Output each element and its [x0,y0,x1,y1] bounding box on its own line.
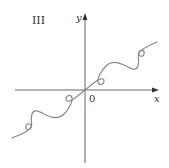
x-axis-arrow-icon [152,88,159,93]
plot-canvas: III y x 0 [0,0,169,168]
panel-label: III [32,14,45,27]
origin-label: 0 [89,93,95,104]
parametric-curve-lower [12,90,85,138]
y-axis-arrow-icon [83,13,88,20]
parametric-curve-upper [85,42,157,90]
diagram-figure: III y x 0 [0,0,169,168]
x-axis-label: x [154,93,160,104]
y-axis-label: y [75,12,82,23]
